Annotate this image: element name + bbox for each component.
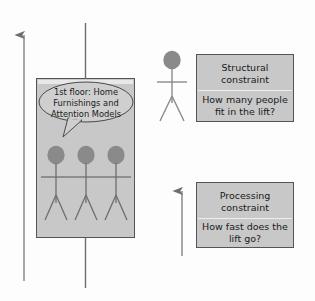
lift-occupant-3 [101,147,131,221]
waiting-person-figure [157,52,187,122]
diagram-canvas: Structural constraint How many people fi… [0,0,315,301]
lift-occupant-2 [71,147,101,221]
lift-occupant-1 [41,147,71,221]
diagram-vector-layer [0,0,315,301]
lift-speech-bubble [39,82,133,137]
